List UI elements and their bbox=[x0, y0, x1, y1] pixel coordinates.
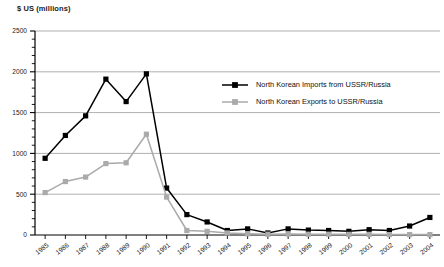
data-point-marker bbox=[63, 179, 68, 184]
data-point-marker bbox=[83, 174, 88, 179]
x-axis-tick-label: 1986 bbox=[54, 241, 70, 256]
x-axis-tick-label: 1998 bbox=[297, 241, 313, 256]
x-axis-tick-label: 1995 bbox=[236, 241, 252, 256]
data-point-marker bbox=[144, 132, 149, 137]
data-point-marker bbox=[407, 232, 412, 237]
x-axis-tick-label: 1992 bbox=[176, 241, 192, 256]
data-point-marker bbox=[225, 230, 230, 235]
x-axis-tick-label: 1994 bbox=[216, 241, 232, 256]
x-axis-tick-label: 1991 bbox=[155, 241, 171, 256]
x-axis-tick-label: 2001 bbox=[358, 241, 374, 256]
x-axis-tick-label: 1987 bbox=[74, 241, 90, 256]
y-axis: 05001000150020002500 bbox=[12, 27, 35, 238]
data-point-marker bbox=[184, 212, 189, 217]
x-axis-tick-label: 1985 bbox=[34, 241, 50, 256]
data-point-marker bbox=[144, 71, 149, 76]
legend-item: North Korean Exports to USSR/Russia bbox=[222, 97, 383, 106]
data-point-marker bbox=[205, 229, 210, 234]
x-axis-tick-label: 1988 bbox=[95, 241, 111, 256]
x-axis-tick-label: 1997 bbox=[277, 241, 293, 256]
data-point-marker bbox=[43, 156, 48, 161]
legend-item-label: North Korean Exports to USSR/Russia bbox=[256, 97, 383, 106]
data-point-marker bbox=[387, 232, 392, 237]
legend-marker-swatch bbox=[232, 82, 238, 88]
y-axis-tick-label: 500 bbox=[16, 191, 27, 198]
legend-marker-swatch bbox=[232, 99, 238, 105]
x-axis-tick-label: 1993 bbox=[196, 241, 212, 256]
y-axis-tick-label: 2000 bbox=[12, 68, 27, 75]
series-exports bbox=[43, 132, 433, 238]
data-point-marker bbox=[427, 215, 432, 220]
x-axis-tick-label: 2004 bbox=[419, 241, 435, 256]
data-point-marker bbox=[346, 232, 351, 237]
legend-item: North Korean Imports from USSR/Russia bbox=[222, 80, 392, 89]
data-point-marker bbox=[124, 99, 129, 104]
legend-item-label: North Korean Imports from USSR/Russia bbox=[256, 80, 392, 89]
data-point-marker bbox=[407, 223, 412, 228]
data-point-marker bbox=[326, 232, 331, 237]
y-axis-tick-label: 1500 bbox=[12, 109, 27, 116]
y-axis-tick-label: 1000 bbox=[12, 150, 27, 157]
series-line bbox=[45, 134, 430, 234]
x-axis-tick-label: 2002 bbox=[378, 241, 394, 256]
data-point-marker bbox=[205, 219, 210, 224]
data-point-marker bbox=[245, 231, 250, 236]
gridlines bbox=[35, 31, 440, 235]
x-axis-tick-label: 1999 bbox=[317, 241, 333, 256]
data-point-marker bbox=[43, 190, 48, 195]
x-axis-tick-label: 1990 bbox=[135, 241, 151, 256]
data-point-marker bbox=[286, 231, 291, 236]
chart-container: $ US (millions) 05001000150020002500 198… bbox=[0, 0, 444, 267]
line-chart-plot: 05001000150020002500 1985198619871988198… bbox=[0, 0, 444, 267]
chart-legend: North Korean Imports from USSR/RussiaNor… bbox=[222, 80, 392, 106]
data-point-marker bbox=[427, 232, 432, 237]
x-axis: 1985198619871988198919901991199219931994… bbox=[34, 235, 435, 256]
x-axis-tick-label: 2003 bbox=[398, 241, 414, 256]
data-point-marker bbox=[265, 232, 270, 237]
data-point-marker bbox=[164, 194, 169, 199]
y-axis-tick-label: 2500 bbox=[12, 27, 27, 34]
data-point-marker bbox=[306, 232, 311, 237]
x-axis-tick-label: 1989 bbox=[115, 241, 131, 256]
data-point-marker bbox=[103, 161, 108, 166]
y-axis-tick-label: 0 bbox=[23, 231, 27, 238]
x-axis-tick-label: 2000 bbox=[338, 241, 354, 256]
data-point-marker bbox=[124, 160, 129, 165]
data-point-marker bbox=[367, 227, 372, 232]
data-point-marker bbox=[245, 226, 250, 231]
data-point-marker bbox=[83, 113, 88, 118]
data-point-marker bbox=[286, 226, 291, 231]
data-point-marker bbox=[103, 77, 108, 82]
x-axis-tick-label: 1996 bbox=[257, 241, 273, 256]
data-point-marker bbox=[184, 228, 189, 233]
data-point-marker bbox=[63, 133, 68, 138]
data-point-marker bbox=[367, 232, 372, 237]
